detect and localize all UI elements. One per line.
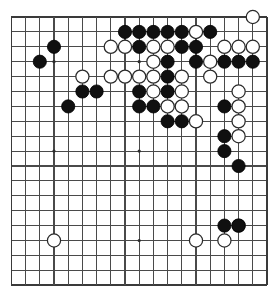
black-stone[interactable] — [90, 85, 103, 98]
white-stone[interactable] — [175, 85, 188, 98]
black-stone[interactable] — [161, 70, 174, 83]
black-stone[interactable] — [161, 25, 174, 38]
black-stone[interactable] — [218, 145, 231, 158]
white-stone[interactable] — [175, 70, 188, 83]
white-stone[interactable] — [104, 70, 117, 83]
white-stone[interactable] — [232, 130, 245, 143]
white-stone[interactable] — [204, 70, 217, 83]
black-stone[interactable] — [218, 219, 231, 232]
white-stone[interactable] — [47, 234, 60, 247]
white-stone[interactable] — [218, 234, 231, 247]
board-container[interactable] — [0, 0, 280, 300]
white-stone[interactable] — [232, 85, 245, 98]
white-stone[interactable] — [133, 70, 146, 83]
black-stone[interactable] — [189, 55, 202, 68]
black-stone[interactable] — [161, 85, 174, 98]
black-stone[interactable] — [218, 130, 231, 143]
black-stone[interactable] — [133, 85, 146, 98]
black-stone[interactable] — [133, 25, 146, 38]
white-stone[interactable] — [147, 55, 160, 68]
white-stone[interactable] — [232, 40, 245, 53]
black-stone[interactable] — [204, 25, 217, 38]
white-stone[interactable] — [232, 115, 245, 128]
black-stone[interactable] — [133, 100, 146, 113]
star-point — [138, 150, 141, 153]
star-point — [138, 239, 141, 242]
black-stone[interactable] — [33, 55, 46, 68]
white-stone[interactable] — [218, 40, 231, 53]
black-stone[interactable] — [175, 40, 188, 53]
black-stone[interactable] — [118, 25, 131, 38]
go-board-canvas[interactable] — [0, 0, 280, 300]
black-stone[interactable] — [232, 219, 245, 232]
black-stone[interactable] — [175, 115, 188, 128]
white-stone[interactable] — [118, 70, 131, 83]
black-stone[interactable] — [246, 55, 259, 68]
white-stone[interactable] — [161, 40, 174, 53]
white-stone[interactable] — [118, 40, 131, 53]
white-stone[interactable] — [232, 100, 245, 113]
black-stone[interactable] — [62, 100, 75, 113]
black-stone[interactable] — [232, 159, 245, 172]
white-stone[interactable] — [147, 70, 160, 83]
black-stone[interactable] — [147, 100, 160, 113]
white-stone[interactable] — [189, 115, 202, 128]
white-stone[interactable] — [189, 234, 202, 247]
black-stone[interactable] — [133, 40, 146, 53]
white-stone[interactable] — [246, 10, 259, 23]
star-point — [52, 60, 55, 63]
white-stone[interactable] — [147, 40, 160, 53]
white-stone[interactable] — [204, 55, 217, 68]
black-stone[interactable] — [175, 25, 188, 38]
white-stone[interactable] — [76, 70, 89, 83]
black-stone[interactable] — [161, 115, 174, 128]
black-stone[interactable] — [76, 85, 89, 98]
black-stone[interactable] — [189, 40, 202, 53]
white-stone[interactable] — [246, 40, 259, 53]
black-stone[interactable] — [147, 25, 160, 38]
white-stone[interactable] — [104, 40, 117, 53]
black-stone[interactable] — [161, 55, 174, 68]
white-stone[interactable] — [161, 100, 174, 113]
white-stone[interactable] — [147, 85, 160, 98]
go-board-screenshot — [0, 0, 280, 300]
white-stone[interactable] — [175, 100, 188, 113]
star-point — [138, 60, 141, 63]
star-point — [52, 150, 55, 153]
black-stone[interactable] — [47, 40, 60, 53]
black-stone[interactable] — [232, 55, 245, 68]
white-stone[interactable] — [189, 25, 202, 38]
black-stone[interactable] — [218, 100, 231, 113]
black-stone[interactable] — [218, 55, 231, 68]
